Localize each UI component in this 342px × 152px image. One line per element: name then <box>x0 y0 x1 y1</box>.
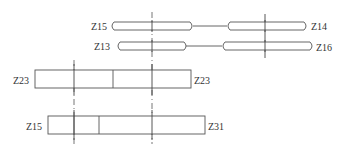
label-z23-left: Z23 <box>13 75 29 86</box>
gear-row-1: Z15 Z14 <box>91 20 327 32</box>
label-z31: Z31 <box>208 121 224 132</box>
label-z16: Z16 <box>316 42 332 53</box>
gear-row-2: Z13 Z16 <box>94 40 332 53</box>
shaft-middle: Z23 Z23 <box>13 64 210 95</box>
label-z15-top: Z15 <box>91 21 107 32</box>
gear-z16 <box>223 42 312 50</box>
transmission-diagram: Z15 Z14 Z13 Z16 Z23 Z23 Z15 Z31 <box>0 0 342 152</box>
label-z23-right: Z23 <box>194 75 210 86</box>
label-z13: Z13 <box>94 41 110 52</box>
label-z14: Z14 <box>311 21 327 32</box>
gear-z14 <box>228 22 306 30</box>
label-z15-bottom: Z15 <box>26 121 42 132</box>
shaft-bottom-body <box>48 116 205 134</box>
shaft-bottom: Z15 Z31 <box>26 110 224 140</box>
